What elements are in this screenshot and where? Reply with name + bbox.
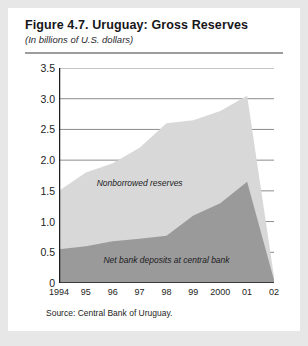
chart-container: 00.51.01.52.02.53.03.5 19949596979899200… (25, 60, 287, 300)
y-axis-tick-label: 1.5 (40, 186, 55, 197)
y-axis-tick-label: 1.0 (40, 216, 55, 227)
plot-area: 00.51.01.52.02.53.03.5 19949596979899200… (59, 68, 274, 283)
y-axis-tick-label: 3.5 (40, 63, 55, 74)
figure-subtitle: (In billions of U.S. dollars) (25, 34, 287, 46)
x-axis-tick-label: 1994 (49, 288, 69, 297)
x-axis-tick-label: 97 (135, 288, 145, 297)
page-title: Figure 4.7. Uruguay: Gross Reserves (25, 18, 287, 33)
x-axis-tick-label: 98 (161, 288, 171, 297)
y-axis-tick-label: 2.5 (40, 124, 55, 135)
x-axis-tick-label: 96 (108, 288, 118, 297)
x-axis-tick-label: 99 (188, 288, 198, 297)
area-chart-svg (59, 68, 274, 283)
y-axis-tick-label: 0.5 (40, 247, 55, 258)
y-axis-tick-label: 3.0 (40, 93, 55, 104)
x-axis-tick-label: 2000 (210, 288, 230, 297)
figure-card: Figure 4.7. Uruguay: Gross Reserves (In … (8, 8, 300, 331)
y-axis-tick-label: 2.0 (40, 155, 55, 166)
x-axis-tick-label: 01 (242, 288, 252, 297)
figure-header: Figure 4.7. Uruguay: Gross Reserves (In … (25, 18, 287, 46)
x-axis-tick-label: 02 (269, 288, 279, 297)
series-label: Nonborrowed reserves (97, 179, 183, 188)
series-label: Net bank deposits at central bank (103, 255, 229, 264)
x-axis-tick-label: 95 (81, 288, 91, 297)
title-divider (25, 52, 283, 54)
source-note: Source: Central Bank of Uruguay. (46, 308, 172, 318)
